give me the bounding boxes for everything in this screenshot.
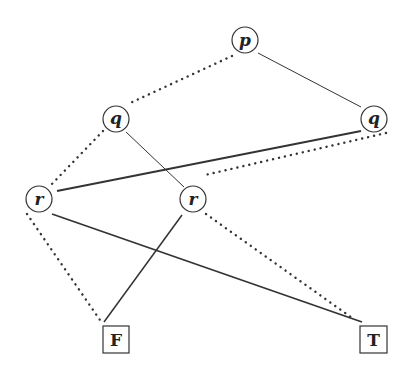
node-q-left: q <box>103 106 129 132</box>
node-r-left-label: r <box>35 189 45 209</box>
bdd-diagram: p q q r r F T <box>0 0 410 374</box>
node-q-left-label: q <box>110 108 122 128</box>
edge-q1-r1-dotted <box>50 131 103 186</box>
node-q-right-label: q <box>368 108 380 128</box>
edge-r2-F-solid <box>104 215 182 322</box>
node-r-middle-label: r <box>189 189 199 209</box>
edge-q1-r2-solid <box>126 132 184 187</box>
edge-r2-T-dotted <box>206 214 355 320</box>
terminal-false-label: F <box>110 330 122 350</box>
node-p: p <box>232 27 258 53</box>
node-r-left: r <box>26 186 52 212</box>
terminal-false: F <box>103 326 129 353</box>
edges <box>27 53 386 322</box>
edge-r1-T-solid <box>52 214 362 322</box>
edge-p-q1-dotted <box>128 56 232 104</box>
node-r-middle: r <box>180 186 206 212</box>
edge-q2-r1-solid <box>57 131 361 191</box>
terminal-true-label: T <box>367 330 380 350</box>
edge-q2-r2-dotted <box>205 133 386 175</box>
edge-r1-F-dotted <box>27 214 100 320</box>
node-q-right: q <box>361 106 387 132</box>
node-p-label: p <box>239 30 251 50</box>
terminal-true: T <box>360 326 387 353</box>
edge-p-q2-solid <box>258 53 361 107</box>
